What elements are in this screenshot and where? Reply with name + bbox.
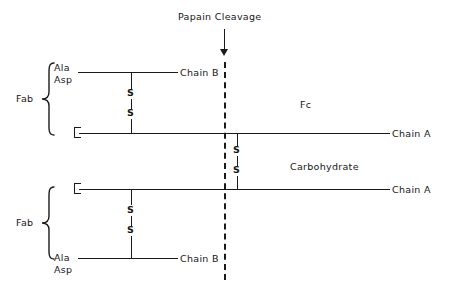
fab-label-top: Fab <box>16 93 33 104</box>
top-light-chain-label: Chain B <box>180 67 219 78</box>
fab-brace-bottom <box>41 186 55 260</box>
papain-cleavage-arrow-shaft <box>224 29 225 51</box>
interchain-sulfur-upper: S <box>233 145 240 155</box>
top-heavy-chain-line <box>79 133 390 134</box>
top-fab-disulfide-lower-segment <box>131 119 132 134</box>
bottom-light-chain-n-terminus-ala: Ala <box>54 252 70 263</box>
papain-cleavage-arrow-head <box>220 49 228 56</box>
top-fab-sulfur-lower: S <box>127 108 134 118</box>
bottom-fab-disulfide-lower-segment <box>131 236 132 258</box>
interchain-sulfur-lower: S <box>233 165 240 175</box>
fab-label-bottom: Fab <box>16 217 33 228</box>
papain-cleavage-label: Papain Cleavage <box>178 11 261 22</box>
bottom-light-chain-n-terminus-asp: Asp <box>54 264 72 275</box>
interchain-disulfide-lower-segment <box>237 176 238 189</box>
bottom-light-chain-label: Chain B <box>180 253 219 264</box>
top-fab-sulfur-upper: S <box>127 88 134 98</box>
carbohydrate-label: Carbohydrate <box>290 161 359 172</box>
papain-cleavage-dashed-line <box>224 62 226 280</box>
fab-brace-top <box>41 62 55 136</box>
bottom-fab-sulfur-upper: S <box>127 205 134 215</box>
bottom-light-chain-line <box>78 258 178 259</box>
top-light-chain-line <box>78 72 178 73</box>
top-light-chain-n-terminus-ala: Ala <box>54 62 70 73</box>
bottom-fab-disulfide-upper-segment <box>131 189 132 205</box>
bottom-heavy-chain-label: Chain A <box>392 184 431 195</box>
fc-region-label: Fc <box>300 99 311 110</box>
bottom-fab-sulfur-lower: S <box>127 225 134 235</box>
bottom-heavy-chain-line <box>79 189 390 190</box>
immunoglobulin-diagram: Papain Cleavage Ala Asp Chain B S S Chai… <box>0 0 456 295</box>
top-heavy-chain-label: Chain A <box>392 128 431 139</box>
top-light-chain-n-terminus-asp: Asp <box>54 74 72 85</box>
